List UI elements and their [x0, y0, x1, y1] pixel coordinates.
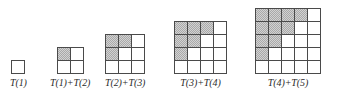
- grid-cell-shaded: [256, 22, 268, 34]
- grid-cell-shaded: [282, 9, 294, 21]
- grid-cell-empty: [12, 61, 24, 73]
- grid-cell-shaded: [175, 22, 187, 34]
- figure-caption: T(1)+T(2): [50, 77, 90, 89]
- figure-group-2: T(1)+T(2): [50, 47, 90, 89]
- grid-cell-empty: [175, 61, 187, 73]
- grid-cell-shaded: [58, 48, 70, 60]
- grid-cell-empty: [295, 48, 307, 60]
- grid-cell-empty: [201, 35, 213, 47]
- grid-cell-shaded: [269, 35, 281, 47]
- grid-cell-empty: [214, 48, 226, 60]
- grid-cell-shaded: [188, 22, 200, 34]
- figures-row: T(1)T(1)+T(2)T(2)+T(3)T(3)+T(4)T(4)+T(5): [0, 0, 342, 89]
- grid-cell-empty: [282, 35, 294, 47]
- grid-cell-shaded: [256, 48, 268, 60]
- grid-cell-shaded: [269, 22, 281, 34]
- grid-cell-empty: [308, 61, 320, 73]
- grid-cell-empty: [201, 48, 213, 60]
- grid-cell-shaded: [119, 35, 131, 47]
- grid-cell-shaded: [106, 48, 118, 60]
- grid-cell-empty: [132, 35, 144, 47]
- grid-cell-empty: [282, 61, 294, 73]
- figure-group-4: T(3)+T(4): [174, 21, 227, 89]
- grid-cell-empty: [295, 61, 307, 73]
- grid-cell-empty: [132, 61, 144, 73]
- grid-cell-empty: [269, 48, 281, 60]
- grid-cell-shaded: [269, 9, 281, 21]
- figure-caption: T(4)+T(5): [268, 77, 308, 89]
- grid-cell-empty: [214, 22, 226, 34]
- grid-cell-shaded: [175, 35, 187, 47]
- grid-cell-shaded: [175, 48, 187, 60]
- grid-cell-empty: [106, 61, 118, 73]
- grid-cell-empty: [256, 61, 268, 73]
- grid-cell-empty: [188, 61, 200, 73]
- grid-cell-empty: [58, 61, 70, 73]
- grid-cell-empty: [119, 61, 131, 73]
- grid-cell-empty: [214, 35, 226, 47]
- grid-5x5: [255, 8, 321, 74]
- grid-cell-empty: [119, 48, 131, 60]
- grid-cell-empty: [308, 48, 320, 60]
- figure-caption: T(1): [10, 77, 27, 89]
- grid-cell-empty: [308, 22, 320, 34]
- grid-cell-empty: [295, 22, 307, 34]
- grid-cell-shaded: [256, 9, 268, 21]
- grid-2x2: [57, 47, 84, 74]
- grid-cell-empty: [188, 48, 200, 60]
- grid-cell-empty: [132, 48, 144, 60]
- grid-cell-shaded: [256, 35, 268, 47]
- grid-cell-empty: [214, 61, 226, 73]
- grid-cell-empty: [308, 9, 320, 21]
- grid-cell-empty: [282, 48, 294, 60]
- grid-cell-empty: [308, 35, 320, 47]
- grid-cell-shaded: [201, 22, 213, 34]
- grid-cell-empty: [71, 61, 83, 73]
- grid-cell-empty: [71, 48, 83, 60]
- figure-group-1: T(1): [10, 60, 27, 89]
- grid-cell-shaded: [188, 35, 200, 47]
- grid-1x1: [11, 60, 25, 74]
- grid-cell-shaded: [106, 35, 118, 47]
- grid-3x3: [105, 34, 145, 74]
- grid-cell-shaded: [282, 22, 294, 34]
- grid-cell-shaded: [295, 9, 307, 21]
- figure-group-3: T(2)+T(3): [105, 34, 145, 89]
- grid-cell-empty: [201, 61, 213, 73]
- figure-caption: T(2)+T(3): [105, 77, 145, 89]
- grid-cell-empty: [269, 61, 281, 73]
- figure-caption: T(3)+T(4): [180, 77, 220, 89]
- grid-cell-empty: [295, 35, 307, 47]
- figure-group-5: T(4)+T(5): [255, 8, 321, 89]
- grid-4x4: [174, 21, 227, 74]
